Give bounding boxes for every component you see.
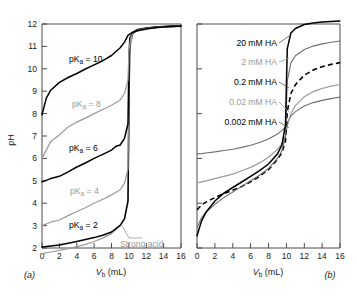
panel-a: 2 3 4 5 6 7 8 9 10 11 12 pH xyxy=(0,0,190,298)
x-tick-2: 2 xyxy=(213,251,218,261)
annotation-2mM: 2 mM HA xyxy=(241,57,277,67)
panel-b-label: (b) xyxy=(325,270,336,280)
x-tick-12: 12 xyxy=(142,251,152,261)
panel-a-annotations: pKa = 10 pKa = 8 pKa = 6 pKa = 4 pKa = 2… xyxy=(69,54,164,249)
y-tick-2: 2 xyxy=(32,243,37,253)
panel-a-label: (a) xyxy=(24,270,35,280)
x-tick-8: 8 xyxy=(109,251,114,261)
panel-a-plot: 2 3 4 5 6 7 8 9 10 11 12 pH xyxy=(0,0,190,298)
annotation-pka-10: pKa = 10 xyxy=(69,54,103,65)
y-tick-9: 9 xyxy=(32,86,37,96)
curve-pka-10 xyxy=(42,26,181,114)
panel-b: 0 2 4 6 8 10 12 14 16 Vb (mL) xyxy=(190,0,357,298)
annotation-0p002mM: 0.002 mM HA xyxy=(224,117,277,127)
annotation-pka-8: pKa = 8 xyxy=(72,99,101,110)
y-tick-5: 5 xyxy=(32,176,37,186)
x-axis-title: Vb (mL) xyxy=(96,267,127,278)
annotation-0p02mM: 0.02 mM HA xyxy=(229,97,277,107)
panel-b-y-ticks xyxy=(197,24,202,248)
x-tick-10: 10 xyxy=(282,251,292,261)
leader-20mM xyxy=(279,36,289,43)
x-tick-16: 16 xyxy=(335,251,345,261)
y-tick-6: 6 xyxy=(32,153,37,163)
panel-b-annotations: 20 mM HA 2 mM HA 0.2 mM HA 0.02 mM HA 0.… xyxy=(224,36,289,128)
panel-a-y-ticks xyxy=(42,24,47,248)
panel-a-axes xyxy=(42,24,181,248)
annotation-pka-4: pKa = 4 xyxy=(70,186,99,197)
titration-figure: 2 3 4 5 6 7 8 9 10 11 12 pH xyxy=(0,0,357,298)
panel-b-curves xyxy=(197,21,340,236)
annotation-pka-6: pKa = 6 xyxy=(69,143,98,154)
curve-pka-8 xyxy=(42,26,181,158)
annotation-pka-2: pKa = 2 xyxy=(69,220,98,231)
panel-b-plot: 0 2 4 6 8 10 12 14 16 Vb (mL) xyxy=(190,0,357,298)
y-tick-11: 11 xyxy=(28,41,37,51)
x-axis-title-unit: (mL) xyxy=(105,267,126,277)
x-tick-8: 8 xyxy=(266,251,271,261)
panel-a-curves xyxy=(42,26,181,254)
x-tick-6: 6 xyxy=(92,251,97,261)
curve-pka-2 xyxy=(42,26,181,247)
annotation-0p2mM: 0.2 mM HA xyxy=(234,77,277,87)
x-tick-16: 16 xyxy=(176,251,186,261)
x-tick-12: 12 xyxy=(300,251,310,261)
annotation-strong-acid: Strong acid xyxy=(120,239,164,249)
y-axis-title: pH xyxy=(6,134,16,146)
x-tick-0: 0 xyxy=(40,251,45,261)
x-axis-title: Vb (mL) xyxy=(253,267,284,278)
x-tick-6: 6 xyxy=(248,251,253,261)
curve-2mM xyxy=(197,41,340,228)
y-tick-12: 12 xyxy=(28,19,38,29)
panel-b-x-ticks xyxy=(197,243,340,248)
strong-acid-leader-line xyxy=(122,226,142,238)
panel-a-y-ticklabels: 2 3 4 5 6 7 8 9 10 11 12 xyxy=(28,19,38,253)
y-tick-10: 10 xyxy=(28,64,38,74)
curve-pka-6 xyxy=(42,26,181,182)
y-tick-3: 3 xyxy=(32,221,37,231)
x-tick-2: 2 xyxy=(57,251,62,261)
curve-20mM xyxy=(197,21,340,236)
curve-strong-acid xyxy=(42,26,181,254)
x-tick-14: 14 xyxy=(159,251,169,261)
y-tick-7: 7 xyxy=(32,131,37,141)
annotation-20mM: 20 mM HA xyxy=(236,38,277,48)
y-tick-8: 8 xyxy=(32,109,37,119)
panel-b-x-ticklabels: 0 2 4 6 8 10 12 14 16 xyxy=(195,251,345,261)
x-tick-4: 4 xyxy=(230,251,235,261)
x-tick-10: 10 xyxy=(124,251,134,261)
panel-a-x-ticklabels: 0 2 4 6 8 10 12 14 16 xyxy=(40,251,186,261)
y-tick-4: 4 xyxy=(32,198,37,208)
x-tick-4: 4 xyxy=(74,251,79,261)
x-axis-title-unit: (mL) xyxy=(262,267,283,277)
x-tick-0: 0 xyxy=(195,251,200,261)
x-tick-14: 14 xyxy=(317,251,327,261)
